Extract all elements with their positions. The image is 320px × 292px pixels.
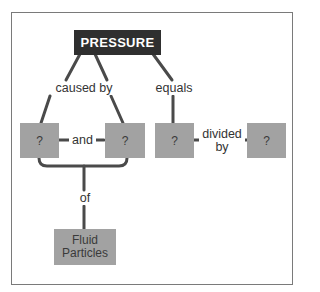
node-label: ? [122,134,129,148]
node-cause-a: ? [20,123,59,158]
node-label: ? [171,134,178,148]
node-numerator: ? [155,123,194,158]
node-cause-b: ? [105,123,145,158]
node-label-line2: Particles [62,247,108,260]
node-denominator: ? [247,123,286,158]
node-label: ? [36,134,43,148]
bracket-line [39,158,127,166]
connector-line [111,96,123,123]
root-node-pressure: PRESSURE [74,30,161,55]
node-label: ? [263,134,270,148]
connector-line [66,54,80,80]
root-node-label: PRESSURE [81,35,155,50]
connector-line [95,54,107,80]
link-label-divided-by: divided by [199,128,245,154]
link-label-and: and [69,134,96,147]
link-label-of: of [74,192,96,205]
link-label-caused-by: caused by [52,82,116,95]
link-label-by: by [200,141,244,154]
connector-line [41,96,50,123]
connector-line [153,54,172,80]
node-fluid-particles: Fluid Particles [54,229,116,265]
link-label-equals: equals [152,82,196,95]
